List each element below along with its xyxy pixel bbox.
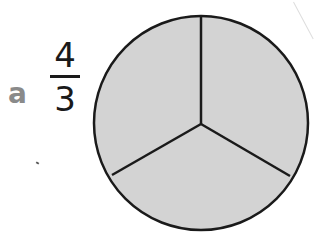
fraction-circle [0, 0, 314, 241]
